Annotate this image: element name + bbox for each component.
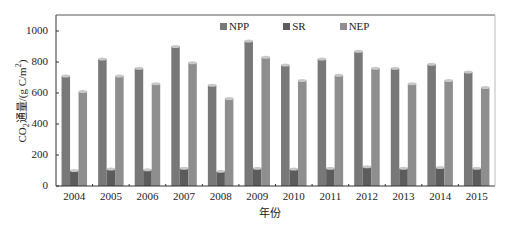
x-tick-label: 2007 <box>164 190 204 202</box>
x-tick-label: 2004 <box>54 190 94 202</box>
bar-cap <box>98 57 107 60</box>
bar-npp <box>244 41 253 186</box>
bar-nep <box>152 84 161 186</box>
bar-nep <box>408 84 417 186</box>
bar-npp <box>427 64 436 186</box>
legend-swatch-sr <box>283 23 290 30</box>
bar-nep <box>298 81 307 186</box>
x-tick-label: 2006 <box>127 190 167 202</box>
bar-sr <box>326 168 335 186</box>
x-tick-label: 2014 <box>420 190 460 202</box>
bar-cap <box>216 170 225 173</box>
bar-npp <box>98 59 107 186</box>
bar-cap <box>115 74 124 77</box>
bar-cap <box>70 169 79 172</box>
bar-npp <box>135 68 144 186</box>
bar-npp <box>318 59 327 186</box>
y-axis-title-part: ) <box>16 60 28 64</box>
x-tick-label: 2005 <box>91 190 131 202</box>
bar-cap <box>298 79 307 82</box>
bar-nep <box>79 91 88 186</box>
bar-cap <box>225 97 234 100</box>
bar-cap <box>152 82 161 85</box>
x-tick-label: 2009 <box>237 190 277 202</box>
bar-sr <box>399 168 408 186</box>
legend-label: NEP <box>349 20 370 32</box>
bar-cap <box>444 79 453 82</box>
bar-cap <box>244 40 253 43</box>
bar-nep <box>188 63 197 186</box>
bar-cap <box>326 167 335 170</box>
bar-cap <box>354 50 363 53</box>
y-axis-title-subscript: 2 <box>22 123 31 127</box>
bar-cap <box>335 74 344 77</box>
y-axis-title: CO2通量/(g C/m2) <box>13 41 31 161</box>
bar-cap <box>436 166 445 169</box>
bar-npp <box>391 68 400 186</box>
bar-npp <box>62 76 71 186</box>
bar-cap <box>188 61 197 64</box>
bar-cap <box>481 86 490 89</box>
bar-nep <box>481 88 490 186</box>
bar-npp <box>171 47 180 187</box>
bar-cap <box>135 67 144 70</box>
bar-cap <box>180 167 189 170</box>
bar-npp <box>354 51 363 186</box>
x-tick-label: 2010 <box>274 190 314 202</box>
bar-cap <box>464 71 473 74</box>
bar-cap <box>408 82 417 85</box>
bar-cap <box>391 67 400 70</box>
bar-cap <box>171 45 180 48</box>
x-tick-label: 2013 <box>384 190 424 202</box>
bar-sr <box>472 168 481 186</box>
bar-chart: 0 200 400 600 800 1000 2004 2005 2006 20… <box>0 0 509 228</box>
bar-nep <box>225 98 234 186</box>
legend: NPP SR NEP <box>220 20 369 32</box>
bar-sr <box>70 171 79 187</box>
faint-caption-artifact <box>190 217 440 223</box>
legend-label: NPP <box>229 20 249 32</box>
bar-cap <box>318 57 327 60</box>
bar-cap <box>143 168 152 171</box>
legend-swatch-nep <box>340 23 347 30</box>
bars-group <box>62 40 490 186</box>
bar-cap <box>427 63 436 66</box>
bar-nep <box>115 76 124 186</box>
bar-cap <box>208 84 217 87</box>
legend-item-npp: NPP <box>220 20 249 32</box>
bar-cap <box>107 167 116 170</box>
bar-sr <box>253 168 261 186</box>
bar-npp <box>281 65 290 186</box>
x-tick-label: 2012 <box>347 190 387 202</box>
bar-cap <box>290 167 299 170</box>
bar-nep <box>261 57 270 186</box>
bar-cap <box>371 67 380 70</box>
y-axis-title-part: CO <box>16 127 28 142</box>
legend-item-nep: NEP <box>340 20 370 32</box>
bar-sr <box>143 170 152 186</box>
bar-cap <box>472 167 481 170</box>
y-tick-label: 0 <box>18 179 48 191</box>
bar-cap <box>261 56 270 59</box>
bar-cap <box>363 165 372 168</box>
x-tick-label: 2008 <box>201 190 241 202</box>
bar-sr <box>290 169 299 186</box>
y-axis-title-superscript: 2 <box>14 63 23 67</box>
bar-npp <box>464 72 473 186</box>
bar-nep <box>444 81 453 186</box>
bar-sr <box>107 169 116 186</box>
bar-cap <box>399 167 408 170</box>
x-tick-label: 2011 <box>310 190 350 202</box>
y-axis-title-part: 通量/(g C/m <box>16 67 28 123</box>
y-tick-label: 1000 <box>18 24 48 36</box>
bar-sr <box>436 167 445 186</box>
bar-cap <box>253 167 262 170</box>
bar-nep <box>335 75 344 186</box>
x-tick-label: 2015 <box>457 190 497 202</box>
legend-swatch-npp <box>220 23 227 30</box>
bar-cap <box>281 64 290 67</box>
bar-sr <box>363 167 372 186</box>
bar-sr <box>216 171 225 186</box>
legend-item-sr: SR <box>283 20 305 32</box>
legend-label: SR <box>292 20 305 32</box>
